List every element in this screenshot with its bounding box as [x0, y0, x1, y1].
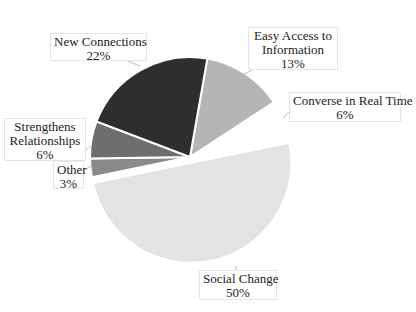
data-label-easy-access: Easy Access to Information 13%: [248, 27, 338, 70]
data-label-percent: 6%: [293, 108, 397, 122]
data-label-category: Strengthens: [8, 120, 82, 134]
data-label-percent: 6%: [8, 148, 82, 162]
data-label-category-line2: Information: [252, 43, 334, 57]
data-label-percent: 13%: [252, 57, 334, 71]
data-label-category: Easy Access to: [252, 29, 334, 43]
data-label-converse-real-time: Converse in Real Time 6%: [289, 92, 401, 122]
pie-chart: New Connections 22% Easy Access to Infor…: [0, 0, 416, 312]
data-label-percent: 50%: [203, 286, 273, 300]
data-label-category: Converse in Real Time: [293, 94, 397, 108]
data-label-social-change: Social Change 50%: [199, 270, 277, 300]
data-label-percent: 22%: [54, 49, 143, 63]
data-label-strengthens-relationships: Strengthens Relationships 6%: [4, 118, 86, 161]
data-label-category: New Connections: [54, 35, 143, 49]
data-label-category: Social Change: [203, 272, 273, 286]
data-label-category: Other: [57, 163, 80, 177]
data-label-percent: 3%: [57, 177, 80, 191]
data-label-other: Other 3%: [53, 161, 84, 189]
data-label-new-connections: New Connections 22%: [50, 33, 147, 61]
data-label-category-line2: Relationships: [8, 134, 82, 148]
leader-line-easy-access: [244, 70, 252, 74]
